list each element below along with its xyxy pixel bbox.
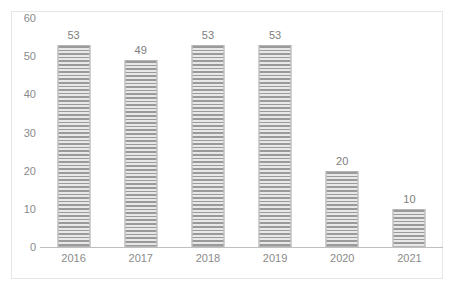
x-axis-tick-label: 2019 [263, 252, 287, 264]
x-axis-tick-label: 2021 [397, 252, 421, 264]
chart-screenshot: 0102030405060 534953532010 2016201720182… [0, 0, 458, 291]
x-axis-tick-label: 2020 [330, 252, 354, 264]
x-axis-tick-label: 2016 [61, 252, 85, 264]
x-axis-tick-label: 2017 [129, 252, 153, 264]
x-axis: 201620172018201920202021 [0, 0, 458, 291]
x-axis-tick-label: 2018 [196, 252, 220, 264]
